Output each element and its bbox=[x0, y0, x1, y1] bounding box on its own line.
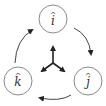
node-i-label: i bbox=[43, 14, 63, 28]
arrow-i-to-j bbox=[74, 28, 91, 54]
node-k-label: k bbox=[8, 75, 28, 89]
node-j-label: j bbox=[78, 75, 98, 89]
center-axes-icon bbox=[42, 47, 64, 71]
arrow-j-to-k bbox=[40, 95, 71, 99]
unit-vector-cycle-diagram: ^ i ^ j ^ k bbox=[0, 0, 106, 106]
arrow-k-to-i bbox=[15, 30, 32, 63]
